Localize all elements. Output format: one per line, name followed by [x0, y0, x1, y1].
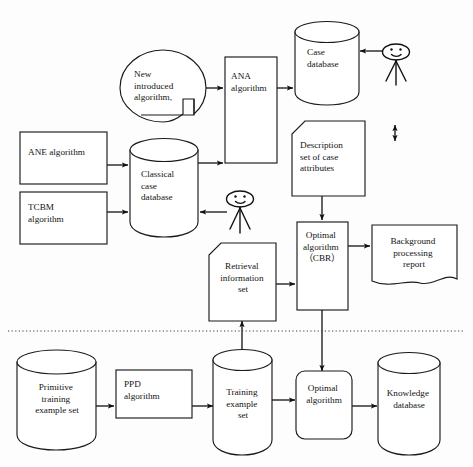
cylinder-top: [378, 353, 440, 374]
flowchart-canvas: New introduced algorithm, ANA algorithm …: [0, 0, 473, 467]
node-background-processing-report[interactable]: Background processing report: [372, 225, 457, 284]
node-optimal-algorithm[interactable]: Optimal algorithm: [296, 371, 352, 439]
person-icon-eye-left: [234, 195, 236, 197]
node-label: Optimal algorithm （CBR）: [303, 230, 341, 263]
person-icon-eye-right: [399, 48, 401, 50]
person-icon-arm-left: [386, 61, 396, 81]
node-case-database[interactable]: Case database: [295, 22, 359, 106]
node-primitive-training-example-set[interactable]: Primitive training example set: [17, 350, 96, 450]
user-actor-top[interactable]: [383, 44, 410, 85]
cylinder-top: [295, 22, 359, 43]
flowchart-diagram: New introduced algorithm, ANA algorithm …: [0, 0, 473, 467]
person-icon-head: [227, 191, 254, 207]
person-icon-eye-left: [390, 48, 392, 50]
node-new-introduced-algorithm[interactable]: New introduced algorithm,: [120, 50, 206, 122]
node-ppd-algorithm[interactable]: PPD algorithm: [116, 370, 192, 418]
node-training-example-set[interactable]: Training example set: [213, 350, 272, 456]
person-icon-arm-left: [230, 208, 240, 229]
node-ana-algorithm[interactable]: ANA algorithm: [225, 57, 277, 163]
node-label: Optimal algorithm: [306, 383, 342, 405]
person-icon-head: [383, 44, 410, 60]
node-label: ANE algorithm: [28, 147, 85, 157]
rounded-rect-shape: [296, 371, 352, 439]
node-retrieval-information-set[interactable]: Retrieval information set: [209, 243, 276, 321]
user-actor-middle[interactable]: [227, 191, 254, 233]
person-icon-arm-right: [396, 61, 406, 81]
node-label: Knowledge database: [387, 388, 432, 410]
node-knowledge-database[interactable]: Knowledge database: [378, 353, 440, 456]
node-tcbm-algorithm[interactable]: TCBM algorithm: [20, 192, 107, 244]
node-description-set-of-case-attributes[interactable]: Description set of case attributes: [292, 121, 365, 196]
node-classical-case-database[interactable]: Classical case database: [130, 139, 198, 238]
rect-shape: [20, 132, 107, 184]
cylinder-top: [17, 350, 96, 374]
node-optimal-algorithm-cbr[interactable]: Optimal algorithm （CBR）: [297, 222, 348, 310]
node-ane-algorithm[interactable]: ANE algorithm: [20, 132, 107, 184]
cylinder-top: [130, 139, 198, 162]
person-icon-arm-right: [240, 208, 250, 229]
cylinder-top: [213, 350, 272, 371]
person-icon-eye-right: [243, 195, 245, 197]
